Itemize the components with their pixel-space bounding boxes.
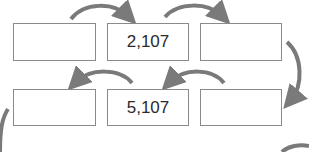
box-row2-col2: 5,107 — [107, 89, 189, 126]
arrow-bottom-right-partial — [282, 145, 309, 152]
arrow-bottom-2 — [76, 72, 132, 83]
arrow-right-down — [287, 42, 300, 100]
box-row1-col3[interactable] — [200, 23, 282, 61]
box-row2-col3[interactable] — [200, 89, 282, 126]
box-row2-col1[interactable] — [13, 89, 96, 126]
arrow-top-1 — [71, 6, 128, 19]
box-row1-col2: 2,107 — [107, 23, 189, 61]
arrow-left-down-partial — [0, 109, 8, 152]
arrow-bottom-1 — [170, 72, 224, 83]
arrow-top-2 — [165, 6, 222, 17]
box-row1-col1[interactable] — [13, 23, 96, 61]
